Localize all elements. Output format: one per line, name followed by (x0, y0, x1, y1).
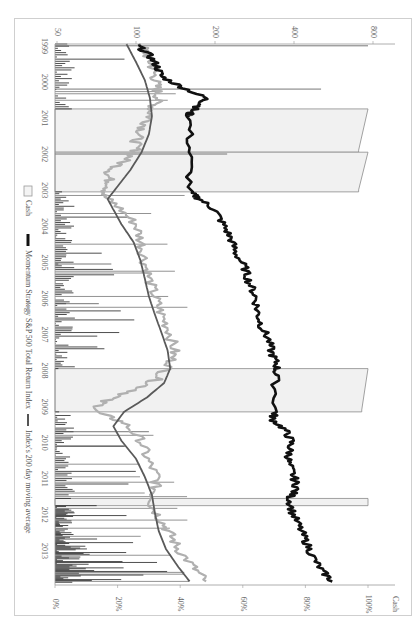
price-axis-tick-label: 50 (53, 28, 62, 36)
year-tick-label: 2013 (40, 543, 49, 559)
cash-period-0 (55, 109, 368, 152)
year-tick-label: 2008 (40, 363, 49, 379)
price-axis-tick-label: 400 (290, 26, 299, 38)
year-tick-label: 2000 (40, 74, 49, 90)
legend-swatch-icon (24, 186, 32, 196)
year-tick-label: 1999 (40, 38, 49, 54)
price-axis-tick-label: 100 (132, 26, 141, 38)
year-tick-label: 2002 (40, 146, 49, 162)
legend-label: Cash (24, 200, 33, 216)
cash-axis-tick-label: 100% (364, 595, 373, 614)
legend-label: S&P 500 Total Return Index (24, 318, 33, 409)
cash-axis-tick-label: 20% (114, 597, 123, 612)
price-axis-tick-label: 200 (211, 26, 220, 38)
price-axis-tick-label: 800 (369, 26, 378, 38)
cash-axis-tick-label: 80% (302, 597, 311, 612)
year-tick-label: 2011 (40, 471, 49, 487)
legend-label: Index's 200 day moving average (24, 430, 33, 534)
legend: CashMomentum StrategyS&P 500 Total Retur… (24, 186, 33, 534)
year-tick-label: 2006 (40, 290, 49, 306)
year-tick-label: 2003 (40, 182, 49, 198)
chart: 501002004008000%20%40%60%80%100%Cash1999… (0, 0, 420, 636)
year-tick-label: 2009 (40, 399, 49, 415)
cash-axis-tick-label: 0% (51, 599, 60, 610)
year-tick-label: 2007 (40, 327, 49, 343)
year-tick-label: 2012 (40, 507, 49, 523)
cash-axis-title: Cash (391, 596, 400, 612)
year-tick-label: 2010 (40, 435, 49, 451)
year-tick-label: 2004 (40, 218, 49, 234)
cash-axis-tick-label: 60% (239, 597, 248, 612)
cash-period-1 (55, 152, 368, 192)
cash-axis-tick-label: 40% (176, 597, 185, 612)
year-tick-label: 2005 (40, 254, 49, 270)
year-tick-label: 2001 (40, 110, 49, 126)
cash-period-3 (55, 498, 368, 505)
